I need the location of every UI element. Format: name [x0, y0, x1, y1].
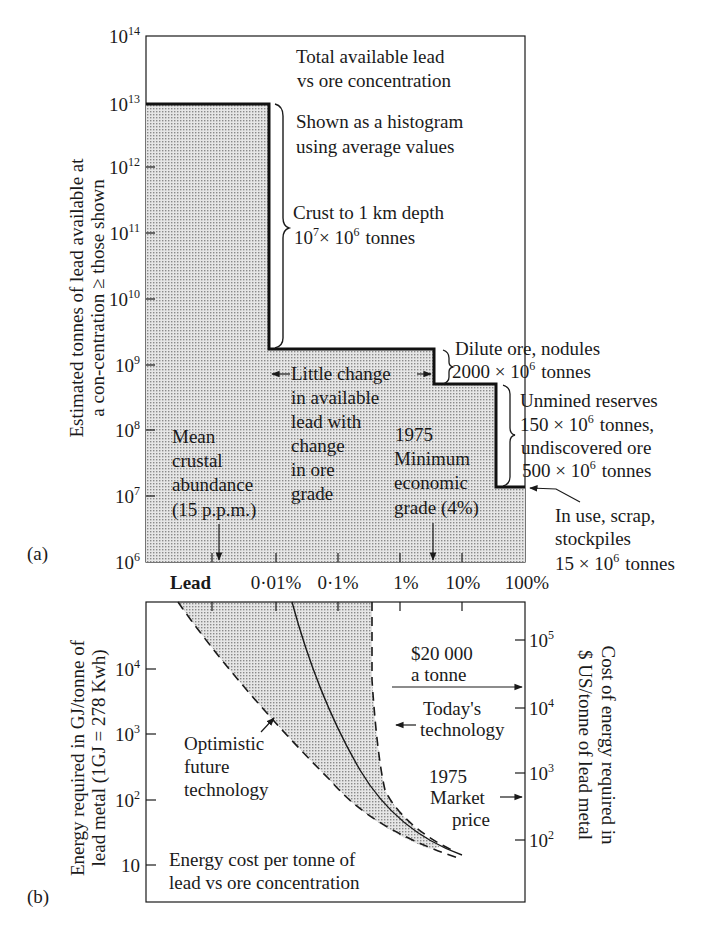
histogram-note-line2: using average values [296, 136, 454, 157]
unmined-label-line1: Unmined reserves [520, 390, 658, 411]
panel-a-title-line2: vs ore concentration [297, 70, 452, 91]
x-axis-name: Lead [170, 572, 212, 593]
svg-text:105: 105 [529, 628, 554, 651]
svg-text:Mean: Mean [172, 426, 216, 447]
svg-text:grade (4%): grade (4%) [394, 497, 479, 519]
svg-text:0·01%: 0·01% [251, 572, 302, 593]
panel-b-title-line2: lead vs ore concentration [169, 872, 360, 893]
unmined-brace [503, 385, 515, 486]
svg-text:(15 p.p.m.): (15 p.p.m.) [172, 499, 256, 521]
svg-text:0·1%: 0·1% [317, 572, 358, 593]
svg-text:1975: 1975 [429, 766, 467, 787]
y-axis-b-left-title-line1: Energy required in GJ/tonne of [67, 639, 88, 876]
y-axis-b-left-ticks [146, 669, 156, 865]
svg-text:future: future [184, 756, 229, 777]
y-axis-b-right-title-line2: $ US/tonne of lead metal [575, 650, 596, 840]
in-use-label-line3: 15 × 106tonnes [555, 551, 675, 574]
svg-text:100%: 100% [505, 572, 550, 593]
svg-text:102: 102 [115, 788, 140, 811]
optimistic-label: Optimistic future technology [184, 733, 269, 800]
dilute-label-line2: 2000 × 106tonnes [452, 359, 591, 382]
svg-text:103: 103 [529, 761, 554, 784]
svg-text:Market: Market [430, 787, 486, 808]
market-price-label: 1975 Market price [429, 766, 490, 830]
svg-text:1975: 1975 [395, 424, 433, 445]
x-axis-labels: Lead 0·01% 0·1% 1% 10% 100% [170, 572, 549, 593]
svg-text:Little change: Little change [291, 363, 391, 384]
in-use-label-line2: stockpiles [555, 528, 631, 549]
optimistic-arrow [261, 718, 274, 732]
svg-text:1014: 1014 [109, 24, 140, 47]
y-axis-a-title-line2: a con-centration ≥ those shown [87, 179, 108, 417]
panel-b-label: (b) [27, 886, 49, 908]
unmined-label-line3: undiscovered ore [521, 437, 651, 458]
svg-text:106: 106 [115, 550, 140, 573]
price-20000-line2: a tonne [411, 664, 466, 685]
in-use-pointer [530, 488, 580, 502]
histogram-note-line1: Shown as a histogram [296, 111, 464, 132]
y-axis-b-right-title-line1: Cost of energy required in [598, 645, 619, 845]
y-axis-b-right-labels: 105 104 103 102 [529, 628, 554, 851]
crust-label-line1: Crust to 1 km depth [293, 202, 444, 223]
price-20000-line1: $20 000 [411, 643, 473, 664]
svg-text:Optimistic: Optimistic [184, 733, 264, 754]
svg-text:102: 102 [529, 828, 554, 851]
crust-label-line2: 107× 106tonnes [294, 225, 415, 248]
svg-text:in available: in available [291, 387, 379, 408]
svg-text:1010: 1010 [109, 287, 140, 310]
svg-text:Minimum: Minimum [394, 448, 470, 469]
svg-text:104: 104 [115, 657, 140, 680]
svg-text:10%: 10% [446, 572, 481, 593]
panel-b-title-line1: Energy cost per tonne of [169, 849, 356, 870]
svg-text:108: 108 [115, 418, 140, 441]
svg-text:109: 109 [115, 353, 140, 376]
svg-text:10: 10 [121, 855, 140, 876]
svg-text:107: 107 [115, 484, 140, 507]
dilute-label-line1: Dilute ore, nodules [455, 338, 600, 359]
svg-text:104: 104 [529, 696, 554, 719]
svg-text:1013: 1013 [109, 92, 140, 115]
y-axis-b-left-labels: 104 103 102 10 [115, 657, 140, 876]
y-axis-a-title-line1: Estimated tonnes of lead available at [66, 158, 87, 438]
y-axis-b-left-title-line2: lead metal (1GJ = 278 Kwh) [88, 649, 110, 866]
unmined-label-line2: 150 × 106tonnes, [520, 412, 654, 435]
panel-b: 104 103 102 10 105 104 103 102 Energy re… [27, 602, 619, 908]
svg-text:economic: economic [394, 472, 468, 493]
svg-text:grade: grade [291, 483, 333, 504]
svg-text:1012: 1012 [109, 155, 140, 178]
todays-tech-line2: technology [420, 719, 505, 740]
svg-text:lead with: lead with [291, 411, 362, 432]
svg-text:crustal: crustal [172, 450, 223, 471]
svg-text:in ore: in ore [291, 459, 335, 480]
y-axis-b-right-ticks [515, 640, 525, 840]
crust-brace [275, 104, 289, 348]
svg-text:technology: technology [184, 779, 269, 800]
svg-text:103: 103 [115, 722, 140, 745]
panel-a-title-line1: Total available lead [296, 46, 445, 67]
unmined-label-line4: 500 × 106tonnes [522, 458, 651, 481]
svg-text:1011: 1011 [109, 221, 140, 244]
svg-text:change: change [291, 435, 345, 456]
y-axis-a-labels: 1014 1013 1012 1011 1010 109 108 107 106 [109, 24, 140, 573]
svg-text:price: price [452, 809, 490, 830]
svg-text:abundance: abundance [172, 474, 253, 495]
panel-a: 1014 1013 1012 1011 1010 109 108 107 106… [27, 24, 675, 574]
in-use-label-line1: In use, scrap, [555, 505, 655, 526]
svg-text:1%: 1% [393, 572, 419, 593]
todays-tech-line1: Today's [423, 698, 481, 719]
panel-a-label: (a) [27, 543, 48, 565]
figure: 1014 1013 1012 1011 1010 109 108 107 106… [0, 0, 724, 927]
